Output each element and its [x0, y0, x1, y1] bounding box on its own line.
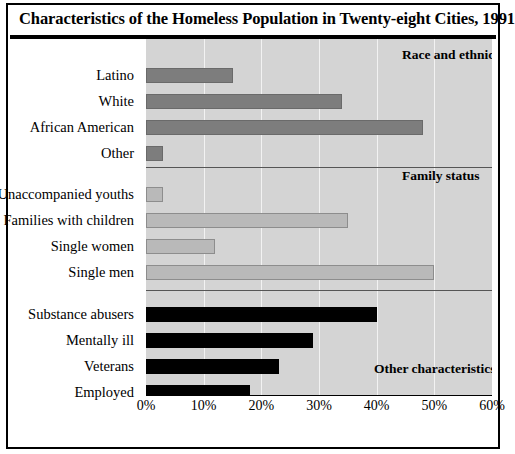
- category-label: Other: [101, 145, 134, 161]
- bar[interactable]: [146, 307, 377, 322]
- group-label: Other characteristics: [374, 361, 492, 377]
- bar[interactable]: [146, 213, 348, 228]
- category-label: White: [99, 93, 134, 109]
- x-tick-label: 0%: [137, 398, 156, 414]
- bar[interactable]: [146, 94, 342, 109]
- figure-frame: Characteristics of the Homeless Populati…: [6, 3, 500, 449]
- category-label: Veterans: [84, 358, 134, 374]
- bar[interactable]: [146, 359, 279, 374]
- x-tick-label: 10%: [191, 398, 217, 414]
- bar[interactable]: [146, 239, 215, 254]
- x-tick-label: 50%: [421, 398, 447, 414]
- bar[interactable]: [146, 146, 163, 161]
- category-label-column: LatinoWhiteAfrican AmericanOtherUnaccomp…: [8, 39, 140, 395]
- group-label: Family status: [402, 168, 480, 184]
- chart-title-bar: Characteristics of the Homeless Populati…: [8, 5, 498, 38]
- x-tick-label: 30%: [306, 398, 332, 414]
- category-label: Substance abusers: [28, 306, 134, 322]
- gridline: [377, 39, 378, 395]
- gridline: [434, 39, 435, 395]
- bar[interactable]: [146, 68, 233, 83]
- x-tick-label: 20%: [248, 398, 274, 414]
- bar[interactable]: [146, 333, 313, 348]
- category-label: Latino: [96, 67, 134, 83]
- plot-wrapper: LatinoWhiteAfrican AmericanOtherUnaccomp…: [8, 39, 498, 447]
- bar[interactable]: [146, 187, 163, 202]
- x-tick-label: 40%: [364, 398, 390, 414]
- category-label: Single men: [68, 264, 134, 280]
- bar[interactable]: [146, 265, 434, 280]
- group-separator: [146, 290, 492, 291]
- category-label: African American: [30, 119, 134, 135]
- plot-area: Race and ethnicityFamily statusOther cha…: [146, 39, 492, 395]
- bar[interactable]: [146, 120, 423, 135]
- x-axis-tick-labels: 0%10%20%30%40%50%60%: [146, 398, 492, 420]
- bar[interactable]: [146, 385, 250, 395]
- x-axis-line: [146, 395, 492, 396]
- category-label: Unaccompanied youths: [0, 186, 134, 202]
- category-label: Employed: [74, 384, 134, 400]
- category-label: Single women: [51, 238, 134, 254]
- x-tick-label: 60%: [479, 398, 505, 414]
- group-label: Race and ethnicity: [402, 47, 492, 63]
- category-label: Mentally ill: [66, 332, 134, 348]
- category-label: Families with children: [4, 212, 134, 228]
- page-title: Characteristics of the Homeless Populati…: [19, 9, 515, 29]
